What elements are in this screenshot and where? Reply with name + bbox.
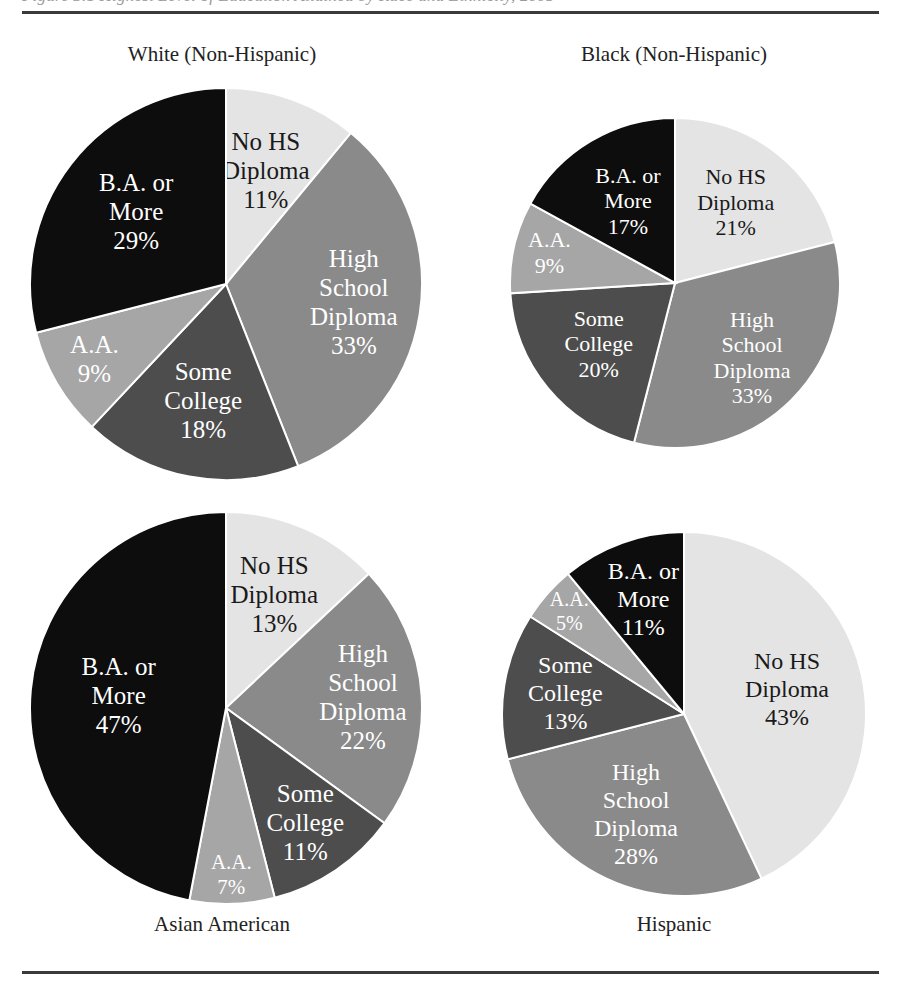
pie-panel-black-title: Black (Non-Hispanic) xyxy=(478,42,870,67)
pie-svg-black: No HSDiploma21%HighSchoolDiploma33%SomeC… xyxy=(506,114,844,452)
figure-rule-top xyxy=(22,11,879,14)
pie-svg-white: No HSDiploma11%HighSchoolDiploma33%SomeC… xyxy=(26,84,426,484)
figure-rule-bottom xyxy=(22,971,879,974)
pie-chart-black: No HSDiploma21%HighSchoolDiploma33%SomeC… xyxy=(506,114,844,452)
pie-panel-white: White (Non-Hispanic) No HSDiploma11%High… xyxy=(26,42,418,492)
pie-svg-asian: No HSDiploma13%HighSchoolDiploma22%SomeC… xyxy=(26,508,426,908)
pie-panel-hispanic: No HSDiploma43%HighSchoolDiploma28%SomeC… xyxy=(478,500,870,952)
pie-panel-asian: No HSDiploma13%HighSchoolDiploma22%SomeC… xyxy=(26,500,418,952)
pie-chart-white: No HSDiploma11%HighSchoolDiploma33%SomeC… xyxy=(26,84,426,484)
figure-caption-clipped: Figure 3.1 Highest Level of Education At… xyxy=(22,0,879,8)
pie-chart-hispanic: No HSDiploma43%HighSchoolDiploma28%SomeC… xyxy=(498,528,870,900)
pie-panel-white-title: White (Non-Hispanic) xyxy=(26,42,418,67)
pie-panel-asian-title: Asian American xyxy=(26,912,418,937)
pie-panel-black: Black (Non-Hispanic) No HSDiploma21%High… xyxy=(478,42,870,492)
pie-chart-asian: No HSDiploma13%HighSchoolDiploma22%SomeC… xyxy=(26,508,426,908)
pie-panel-hispanic-title: Hispanic xyxy=(478,912,870,937)
pie-svg-hispanic: No HSDiploma43%HighSchoolDiploma28%SomeC… xyxy=(498,528,870,900)
